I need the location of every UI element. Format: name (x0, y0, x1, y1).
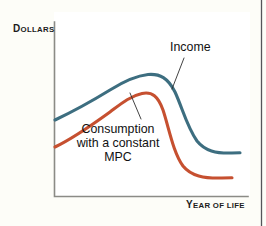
series-label-consumption-line2: with a constant (76, 136, 160, 150)
y-axis-label: DOLLARS (13, 23, 54, 34)
chart-svg: Income Consumption with a constant MPC D… (0, 0, 266, 226)
chart-figure: Income Consumption with a constant MPC D… (0, 0, 266, 226)
y-axis-label-lead: D (13, 23, 21, 34)
x-axis-label-lead: Y (186, 199, 193, 210)
series-label-income: Income (170, 40, 211, 54)
y-axis-label-rest: OLLARS (21, 25, 55, 34)
x-axis-label: YEAR OF LIFE (186, 199, 245, 210)
series-label-consumption-line1: Consumption (81, 122, 154, 136)
series-label-consumption-line3: MPC (104, 150, 132, 164)
x-axis-label-rest: EAR OF LIFE (193, 201, 245, 210)
